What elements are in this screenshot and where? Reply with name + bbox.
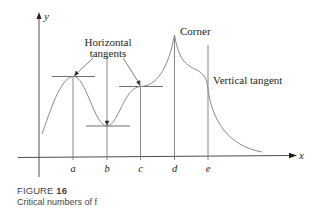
y-axis-arrow-icon (37, 12, 42, 19)
vertical-tangent-label: Vertical tangent (213, 74, 282, 86)
horizontal-tangent-lines (52, 77, 163, 127)
tick-label-e: e (206, 163, 211, 174)
leader-to-c (123, 58, 139, 83)
corner-label: Corner (180, 25, 211, 37)
function-curve (42, 35, 262, 152)
figure-number: 16 (56, 185, 67, 196)
tick-label-a: a (70, 163, 75, 174)
x-axis: x (18, 149, 304, 161)
tick-label-c: c (138, 163, 143, 174)
annotations: Horizontal tangents Corner Vertical tang… (84, 25, 282, 86)
arrowhead-b-icon (105, 121, 109, 125)
arrowhead-c-icon (137, 81, 140, 86)
figure-caption-title: FIGURE 16 (17, 185, 67, 196)
horizontal-tangents-label-line2: tangents (90, 47, 127, 59)
x-axis-arrow-icon (289, 153, 297, 158)
tick-label-b: b (104, 163, 109, 174)
figure-caption-text: Critical numbers of f (17, 197, 97, 208)
tick-label-d: d (172, 163, 178, 174)
y-axis-label: y (43, 10, 49, 22)
figure-label: FIGURE (17, 185, 54, 196)
x-tick-labels: a b c d e (70, 163, 210, 174)
y-axis: y (37, 10, 50, 177)
x-axis-label: x (298, 149, 304, 161)
leader-to-a (76, 58, 93, 74)
critical-numbers-diagram: y x a b c d e Horizontal tangents Corner… (0, 0, 313, 215)
